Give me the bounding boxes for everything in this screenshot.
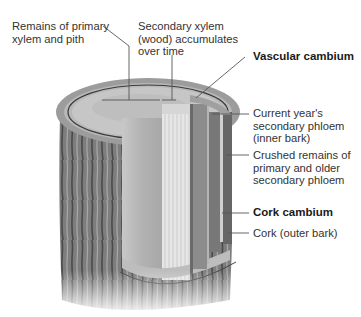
label-cork: Cork (outer bark) bbox=[253, 227, 338, 240]
label-vascular-cambium: Vascular cambium bbox=[253, 50, 354, 63]
current-phloem-layer bbox=[193, 104, 207, 269]
label-current-phloem: Current year's secondary phloem (inner b… bbox=[253, 107, 344, 145]
label-cork-cambium: Cork cambium bbox=[253, 206, 333, 219]
secondary-xylem-column bbox=[162, 110, 190, 280]
tree-trunk-diagram: Remains of primary xylem and pith Second… bbox=[0, 0, 361, 317]
crushed-phloem-layer bbox=[209, 112, 220, 252]
label-primary-xylem: Remains of primary xylem and pith bbox=[12, 20, 109, 45]
label-crushed-phloem: Crushed remains of primary and older sec… bbox=[253, 149, 351, 187]
cork-cambium-layer bbox=[220, 112, 223, 242]
vascular-cambium-layer bbox=[190, 104, 193, 274]
cork-layer bbox=[223, 112, 232, 244]
label-secondary-xylem: Secondary xylem (wood) accumulates over … bbox=[138, 20, 238, 58]
pith-column bbox=[122, 118, 162, 268]
